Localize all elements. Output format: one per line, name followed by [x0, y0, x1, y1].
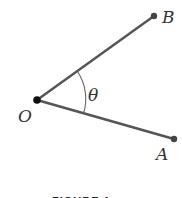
label-a: A — [154, 144, 168, 164]
point-b — [151, 13, 157, 19]
label-theta: θ — [88, 85, 98, 105]
angle-diagram: B A O θ FIGURE 1 — [0, 0, 182, 198]
ray-oa — [37, 100, 174, 139]
figure-caption: FIGURE 1 — [52, 195, 111, 198]
vertex-point-o — [33, 96, 41, 104]
label-b: B — [161, 7, 175, 27]
angle-arc — [78, 72, 86, 114]
label-o: O — [18, 106, 32, 126]
point-a — [171, 136, 177, 142]
